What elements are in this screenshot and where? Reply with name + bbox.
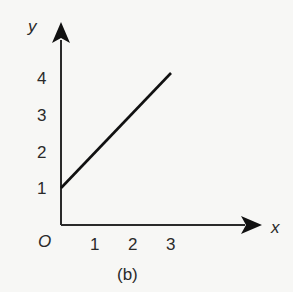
y-axis-label: y	[27, 17, 38, 36]
x-axis-label: x	[270, 218, 280, 237]
chart-canvas: y x O 1 2 3 4 1 2 3 (b)	[0, 0, 293, 292]
x-tick-1: 1	[90, 235, 99, 254]
origin-label: O	[38, 232, 51, 251]
y-tick-3: 3	[37, 106, 46, 125]
figure-caption: (b)	[117, 265, 138, 284]
y-tick-2: 2	[37, 143, 46, 162]
x-tick-2: 2	[128, 235, 137, 254]
y-tick-1: 1	[37, 179, 46, 198]
data-line	[61, 73, 171, 188]
y-tick-4: 4	[37, 69, 46, 88]
x-tick-3: 3	[166, 235, 175, 254]
y-axis-arrow-icon	[52, 22, 70, 43]
